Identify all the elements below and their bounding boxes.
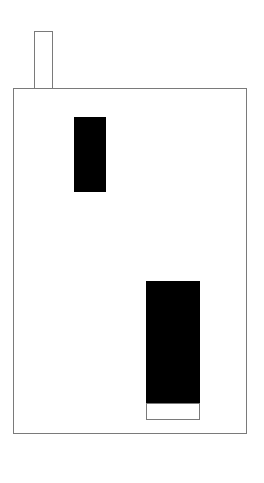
container-rectangle [13,88,247,434]
upper-filled-bar [74,117,106,192]
diagram-canvas [0,0,264,483]
lower-bar-base-box [146,403,200,420]
stub-rectangle [34,31,53,89]
lower-filled-bar [146,281,200,403]
